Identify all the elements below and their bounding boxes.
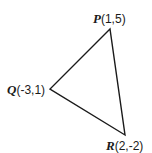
triangle-diagram: P(1,5) Q(-3,1) R(2,-2) (0, 0, 152, 153)
triangle-pqr (50, 29, 125, 135)
label-q: Q(-3,1) (7, 82, 45, 97)
label-p: P(1,5) (93, 11, 126, 26)
label-r: R(2,-2) (105, 138, 143, 153)
